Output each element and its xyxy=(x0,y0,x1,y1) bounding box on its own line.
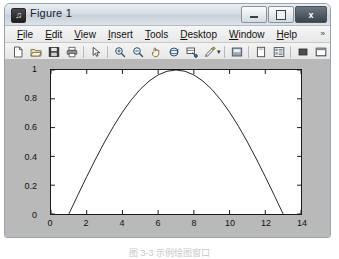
plot-curve xyxy=(51,70,301,214)
insert-colorbar-icon[interactable] xyxy=(228,43,245,60)
menu-item-desktop[interactable]: Desktop xyxy=(174,27,223,42)
menu-overflow-icon[interactable]: » xyxy=(321,29,325,38)
x-tick-label: 0 xyxy=(47,218,52,228)
menu-label-desktop-rest: esktop xyxy=(187,29,216,40)
menu-item-edit[interactable]: Edit xyxy=(39,27,68,42)
menu-item-tools[interactable]: Tools xyxy=(139,27,174,42)
menu-label-insert-rest: nsert xyxy=(111,29,133,40)
menu-item-view[interactable]: View xyxy=(68,27,102,42)
y-tick-label: 0.2 xyxy=(24,181,37,191)
x-tick-label: 14 xyxy=(297,218,307,228)
x-tick-label: 6 xyxy=(155,218,160,228)
dock-figure-icon[interactable] xyxy=(312,43,329,60)
y-tick-label: 1 xyxy=(32,64,37,74)
plot-axes[interactable] xyxy=(50,69,302,215)
y-tick-label: 0 xyxy=(32,210,37,220)
toolbar-separator xyxy=(224,46,225,58)
x-tick-label: 8 xyxy=(191,218,196,228)
caption-text: 图 3-3 示例绘图窗口 xyxy=(129,248,210,258)
brush-data-icon[interactable] xyxy=(201,43,218,60)
menu-label-help-rest: elp xyxy=(284,29,297,40)
x-tick-label: 4 xyxy=(119,218,124,228)
zoom-out-icon[interactable] xyxy=(129,43,146,60)
new-figure-icon[interactable] xyxy=(9,43,26,60)
toolbar-separator xyxy=(83,46,84,58)
menu-label-view-rest: iew xyxy=(81,29,96,40)
data-cursor-icon[interactable] xyxy=(183,43,200,60)
property-editor-icon[interactable] xyxy=(294,43,311,60)
toolbar-separator xyxy=(290,46,291,58)
menu-item-window[interactable]: Window xyxy=(223,27,271,42)
menu-label-window-rest: indow xyxy=(238,29,264,40)
toolbar-separator xyxy=(107,46,108,58)
zoom-in-icon[interactable] xyxy=(111,43,128,60)
window-title: Figure 1 xyxy=(30,7,72,19)
title-bar[interactable]: ♫ Figure 1 x xyxy=(5,4,330,26)
brush-dropdown-caret-icon[interactable]: ▾ xyxy=(217,48,221,56)
open-file-icon[interactable] xyxy=(27,43,44,60)
figure-canvas[interactable]: 00.20.40.60.81 02468101214 xyxy=(5,59,330,237)
menu-label-tools-rest: ools xyxy=(150,29,168,40)
menu-label-file-rest: ile xyxy=(23,29,33,40)
pan-icon[interactable] xyxy=(147,43,164,60)
figure-palette-icon[interactable] xyxy=(252,43,269,60)
y-tick-label: 0.8 xyxy=(24,93,37,103)
x-tick-label: 10 xyxy=(225,218,235,228)
plot-browser-icon[interactable] xyxy=(270,43,287,60)
y-tick-label: 0.6 xyxy=(24,122,37,132)
menu-item-help[interactable]: Help xyxy=(271,27,304,42)
figure-caption: 图 3-3 示例绘图窗口 xyxy=(0,248,339,259)
matlab-figure-icon: ♫ xyxy=(11,8,26,23)
menu-label-edit-rest: dit xyxy=(52,29,63,40)
close-button[interactable]: x xyxy=(295,6,327,23)
print-figure-icon[interactable] xyxy=(63,43,80,60)
y-tick-label: 0.4 xyxy=(24,152,37,162)
toolbar-separator xyxy=(248,46,249,58)
save-figure-icon[interactable] xyxy=(45,43,62,60)
x-tick-label: 2 xyxy=(83,218,88,228)
menu-item-insert[interactable]: Insert xyxy=(102,27,139,42)
window-controls: x xyxy=(241,6,327,23)
rotate-3d-icon[interactable] xyxy=(165,43,182,60)
minimize-button[interactable] xyxy=(241,6,267,23)
menu-bar: File Edit View Insert Tools Desktop Wind… xyxy=(5,26,330,43)
edit-plot-pointer-icon[interactable] xyxy=(87,43,104,60)
x-tick-label: 12 xyxy=(261,218,271,228)
figure-window: ♫ Figure 1 x File Edit View Insert Tools… xyxy=(4,3,331,238)
maximize-button[interactable] xyxy=(268,6,294,23)
menu-item-file[interactable]: File xyxy=(11,27,39,42)
